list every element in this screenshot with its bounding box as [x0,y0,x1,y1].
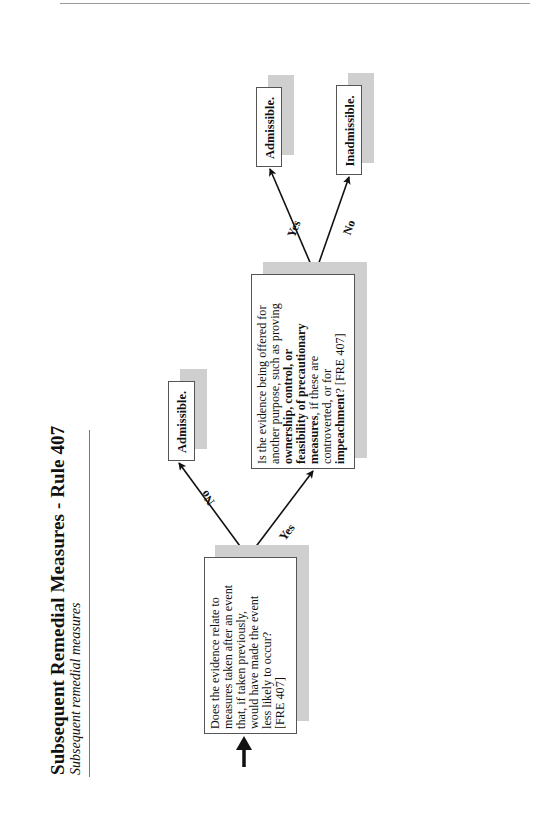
q2-bold-text: measures [307,415,321,464]
q2-text: , if these are [307,356,321,416]
q2-bold-text: impeachment [333,394,347,464]
result-label: Admissible. [264,97,277,159]
result-box-admissible-1: Admissible. [168,381,195,461]
q1-line: [FRE 407] [274,564,287,729]
result-label: Inadmissible. [344,95,357,166]
result-box-inadmissible: Inadmissible. [336,85,362,175]
result-label: Admissible. [176,391,189,453]
q2-bold-text: feasibility of precautionary [294,323,308,464]
decision-box-q2: Is the evidence being offered for anothe… [251,274,355,469]
result-box-admissible-2: Admissible. [256,87,282,167]
edge-q1-no [179,463,248,557]
entry-arrow [236,736,252,767]
q2-text: ? [FRE 407] [333,333,347,393]
q2-bold-text: ownership, control, or [281,349,295,464]
decision-box-q1: Does the evidence relate to measures tak… [204,557,297,734]
